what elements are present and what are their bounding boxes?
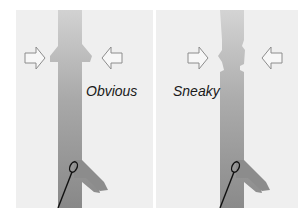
label-sneaky: Sneaky — [173, 83, 220, 99]
vessel-diagram-obvious — [16, 10, 153, 208]
arrow-left-icon — [102, 47, 122, 69]
arrow-right-icon — [25, 47, 45, 69]
arrow-left-icon — [262, 47, 282, 69]
panel-sneaky: Sneaky — [156, 10, 298, 208]
vessel-diagram-sneaky — [156, 10, 298, 208]
arrow-right-icon — [188, 47, 208, 69]
panel-obvious: Obvious — [16, 10, 153, 208]
label-obvious: Obvious — [86, 83, 137, 99]
